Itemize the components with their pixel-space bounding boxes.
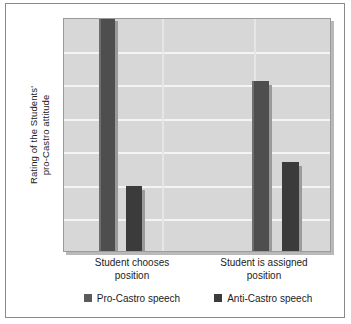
legend-swatch-icon-pro-castro [84,294,92,302]
legend-item-pro-castro: Pro-Castro speech [84,293,180,304]
bar-body [282,162,299,251]
x-axis-label-chooses: Student chooses position [67,256,197,282]
bar-shadow [299,166,302,251]
y-axis-title-text: Rating of the Students' pro-Castro attit… [28,86,52,184]
bar-body [126,186,142,251]
x-axis-label-assigned-line2: position [199,269,329,282]
y-axis-title: Rating of the Students' pro-Castro attit… [20,18,60,252]
bar-pro-castro-assigned [252,81,269,251]
x-axis-label-assigned: Student is assigned position [199,256,329,282]
x-axis-label-chooses-line2: position [67,269,197,282]
x-axis-labels: Student chooses position Student is assi… [63,256,331,286]
chart-legend: Pro-Castro speech Anti-Castro speech [63,290,333,306]
legend-label-pro-castro: Pro-Castro speech [97,293,180,304]
bar-shadow [115,21,118,251]
x-axis-label-chooses-line1: Student chooses [95,257,170,268]
legend-label-anti-castro: Anti-Castro speech [227,293,312,304]
y-axis-title-line1: Rating of the Students' [28,86,39,184]
bar-anti-castro-chooses [126,186,142,251]
bar-shadow [269,85,272,251]
bar-body [99,18,115,251]
bar-body [252,81,269,251]
bar-shadow [142,190,145,251]
plot-area [63,18,331,252]
bar-anti-castro-assigned [282,162,299,251]
legend-swatch-icon-anti-castro [214,294,222,302]
y-axis-title-line2: pro-Castro attitude [40,86,52,184]
legend-item-anti-castro: Anti-Castro speech [214,293,312,304]
bar-pro-castro-chooses [99,18,115,251]
chart-figure: Rating of the Students' pro-Castro attit… [5,3,345,318]
x-axis-label-assigned-line1: Student is assigned [220,257,307,268]
vertical-gridline-1 [162,19,164,251]
